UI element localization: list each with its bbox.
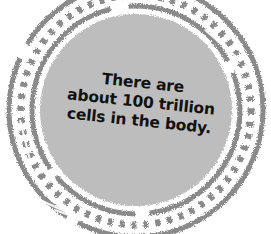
fact-badge: There are about 100 trillion cells in th… (0, 0, 271, 234)
